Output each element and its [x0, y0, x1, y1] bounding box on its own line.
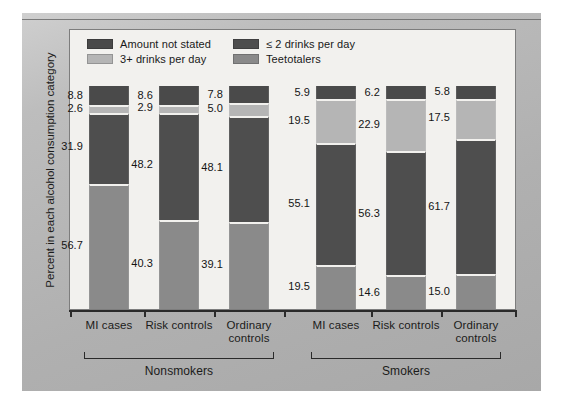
bar-segment-2-drinks-per-day [316, 143, 356, 265]
stacked-bar [456, 86, 496, 309]
bar-segment-3-drinks-per-day [229, 103, 269, 116]
bar-value-label: 5.9 [268, 86, 310, 98]
chart-legend: Amount not stated ≤ 2 drinks per day 3+ … [87, 38, 355, 65]
legend-swatch-two-or-less [233, 39, 259, 49]
bar-segment-2-drinks-per-day [89, 113, 129, 184]
stacked-bar [89, 86, 129, 309]
y-axis-title: Percent in each alcohol consumption cate… [30, 29, 70, 310]
bar-segment-teetotalers [229, 222, 269, 309]
legend-item-teetotalers: Teetotalers [233, 53, 355, 65]
x-axis-tick [214, 310, 216, 317]
bar-column [229, 86, 269, 309]
bar-value-label: 7.8 [181, 88, 223, 100]
bars-area: 8.82.631.956.78.62.948.240.37.85.048.139… [70, 86, 515, 309]
bar-segment-2-drinks-per-day [229, 116, 269, 222]
bar-value-label: 14.6 [338, 286, 380, 298]
bar-value-label: 17.5 [408, 111, 450, 123]
legend-item-two-or-less: ≤ 2 drinks per day [233, 38, 355, 50]
bar-value-label: 22.9 [338, 118, 380, 130]
stacked-bar [159, 86, 199, 309]
x-axis-tick [515, 310, 517, 317]
bar-value-label: 61.7 [408, 200, 450, 212]
bar-value-label: 19.5 [268, 114, 310, 126]
bar-value-label: 6.2 [338, 86, 380, 98]
bar-segment-3-drinks-per-day [456, 99, 496, 139]
legend-swatch-three-plus [87, 54, 113, 64]
x-axis-tick [144, 310, 146, 317]
category-label-line2: controls [431, 332, 521, 345]
y-axis-title-text: Percent in each alcohol consumption cate… [44, 52, 56, 287]
legend-label-amount-not-stated: Amount not stated [120, 38, 211, 50]
legend-item-three-plus: 3+ drinks per day [87, 53, 211, 65]
bar-value-label: 48.2 [111, 158, 153, 170]
bar-segment-amount-not-stated [456, 86, 496, 99]
bar-segment-amount-not-stated [229, 86, 269, 103]
x-axis-tick [371, 310, 373, 317]
bar-segment-teetotalers [456, 274, 496, 309]
figure-container: Percent in each alcohol consumption cate… [0, 0, 562, 402]
bar-column [456, 86, 496, 309]
bar-value-label: 55.1 [268, 197, 310, 209]
category-label: Ordinarycontrols [204, 319, 294, 345]
legend-item-amount-not-stated: Amount not stated [87, 38, 211, 50]
x-axis-tick [284, 310, 286, 317]
legend-label-two-or-less: ≤ 2 drinks per day [266, 38, 355, 50]
category-label-line1: Ordinary [204, 319, 294, 332]
bar-value-label: 2.9 [111, 101, 153, 113]
group-label: Nonsmokers [84, 364, 274, 378]
stacked-bar [229, 86, 269, 309]
category-label-line1: Ordinary [431, 319, 521, 332]
x-axis-tick [441, 310, 443, 317]
bar-value-label: 8.6 [111, 89, 153, 101]
bar-value-label: 15.0 [408, 285, 450, 297]
bar-segment-teetotalers [89, 184, 129, 309]
bar-value-label: 56.3 [338, 207, 380, 219]
category-label-line2: controls [204, 332, 294, 345]
legend-label-three-plus: 3+ drinks per day [120, 53, 206, 65]
bar-column [159, 86, 199, 309]
plot-panel: Amount not stated ≤ 2 drinks per day 3+ … [69, 29, 516, 310]
x-axis-tick [70, 310, 72, 317]
bar-value-label: 5.8 [408, 85, 450, 97]
bar-segment-3-drinks-per-day [386, 99, 426, 151]
bar-value-label: 19.5 [268, 280, 310, 292]
bar-column [89, 86, 129, 309]
bar-value-label: 5.0 [181, 102, 223, 114]
bar-value-label: 39.1 [181, 258, 223, 270]
group-bracket [311, 352, 501, 359]
category-label: Ordinarycontrols [431, 319, 521, 345]
bar-segment-2-drinks-per-day [456, 139, 496, 275]
legend-swatch-teetotalers [233, 54, 259, 64]
frame-top-hairline [22, 19, 541, 20]
bar-value-label: 40.3 [111, 257, 153, 269]
bar-value-label: 48.1 [181, 161, 223, 173]
group-bracket [84, 352, 274, 359]
group-label: Smokers [311, 364, 501, 378]
bar-segment-2-drinks-per-day [386, 151, 426, 275]
legend-label-teetotalers: Teetotalers [266, 53, 321, 65]
x-axis-line [69, 310, 516, 312]
legend-swatch-amount-not-stated [87, 39, 113, 49]
